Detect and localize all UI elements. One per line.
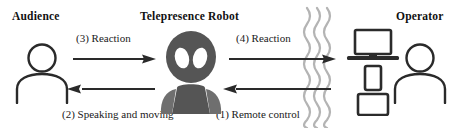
tablet-icon bbox=[358, 94, 388, 115]
arrow-reaction-4 bbox=[228, 52, 338, 66]
arrow-label-reaction-3: (3) Reaction bbox=[76, 32, 131, 44]
smartphone-icon bbox=[365, 66, 381, 90]
arrow-speaking-and-moving bbox=[66, 82, 156, 96]
laptop-icon bbox=[347, 30, 399, 60]
heading-telepresence-robot: Telepresence Robot bbox=[140, 10, 239, 22]
arrow-remote-control bbox=[222, 82, 332, 96]
arrow-label-reaction-4: (4) Reaction bbox=[236, 32, 291, 44]
person-outline-icon-audience bbox=[14, 42, 70, 104]
wireless-wavy-lines-icon bbox=[300, 6, 334, 128]
telepresence-robot-icon bbox=[152, 30, 230, 116]
heading-audience: Audience bbox=[12, 10, 60, 22]
diagram-canvas: Audience Telepresence Robot Operator (3)… bbox=[0, 0, 457, 133]
arrow-reaction-3 bbox=[72, 52, 158, 66]
heading-operator: Operator bbox=[396, 10, 444, 22]
device-stack bbox=[344, 28, 402, 116]
